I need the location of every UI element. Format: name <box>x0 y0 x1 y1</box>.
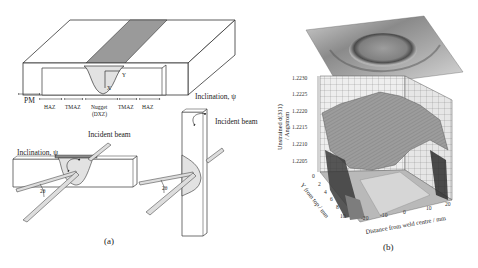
x-tick: 10 <box>426 205 432 211</box>
z-tick: 1.2225 <box>292 91 308 97</box>
pm-label: PM <box>24 96 35 105</box>
z-axis: 1.2230 1.2225 1.2220 1.2215 1.2210 1.220… <box>276 75 318 172</box>
tmaz-right-label: TMAZ <box>118 104 134 110</box>
haz-left-label: HAZ <box>44 104 56 110</box>
y-tick: 10 <box>340 213 346 219</box>
x-tick: 20 <box>445 201 451 207</box>
z-tick: 1.2210 <box>292 141 308 147</box>
incident-beam-label-horizontal: Incident beam <box>88 130 131 139</box>
y-tick: 2 <box>318 181 321 187</box>
vertical-specimen <box>139 109 224 236</box>
z-tick: 1.2220 <box>292 108 308 114</box>
y-coord-label: Y <box>122 72 126 78</box>
plate-schematic: Y X <box>23 20 235 95</box>
haz-right-label: HAZ <box>142 104 154 110</box>
y-tick: 4 <box>324 189 327 195</box>
y-tick: 0 <box>312 173 315 179</box>
caption-a: (a) <box>104 236 114 246</box>
x-tick: -10 <box>380 212 388 218</box>
x-tick: 0 <box>403 209 406 215</box>
z-tick: 1.2205 <box>292 158 308 164</box>
y-axis-label: Y from top / mm <box>299 181 331 219</box>
z-axis-label-line2: / Angstrom <box>283 112 290 140</box>
z-tick: 1.2215 <box>292 124 308 130</box>
inclination-label-vertical: Inclination, ψ <box>195 92 236 101</box>
incident-beam-label-vertical: Incident beam <box>215 117 258 126</box>
nugget-sub-label: (DXZ) <box>92 111 107 118</box>
tmaz-left-label: TMAZ <box>65 104 81 110</box>
y-tick: 6 <box>330 196 333 202</box>
caption-b: (b) <box>383 242 394 252</box>
two-theta-label-horizontal: 2θ <box>40 188 46 194</box>
two-theta-label-vertical: 2θ <box>162 185 168 191</box>
z-tick: 1.2230 <box>292 75 308 81</box>
y-tick: 8 <box>336 204 339 210</box>
nugget-label: Nugget <box>91 104 108 110</box>
x-tick: -20 <box>361 215 369 221</box>
inclination-label-horizontal: Inclination, ψ <box>17 148 58 157</box>
x-coord-label: X <box>107 85 111 91</box>
